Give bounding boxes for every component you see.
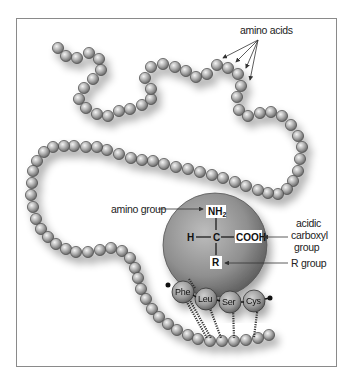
amino-acid-bead [211,59,222,70]
amino-acid-bead [145,61,156,72]
amino-acid-bead [26,177,37,188]
amino-acid-bead [135,283,146,294]
residue-phe: Phe [172,281,194,303]
amino-acid-bead [91,108,102,119]
amino-acid-bead [80,102,91,113]
amino-acid-bead [192,333,203,344]
r-label: R [212,257,220,268]
amino-acid-bead [170,161,181,172]
amino-acid-bead [30,213,41,224]
amino-acid-bead [31,155,42,166]
amino-group-label: amino group [111,203,167,215]
amino-acid-bead [229,176,240,187]
amino-acid-bead [125,152,136,163]
amino-acid-bead [58,140,69,151]
amino-acid-bead [240,180,251,191]
amino-acid-bead [80,141,91,152]
amino-acid-bead [71,52,82,63]
amino-acid-bead [169,61,180,72]
amino-acid-bead [147,155,158,166]
amino-acid-bead [132,272,143,283]
amino-acid-bead [296,141,307,152]
amino-acid-bead [91,141,102,152]
amino-acid-bead [231,91,242,102]
svg-text:Leu: Leu [198,294,212,304]
amino-acid-bead [228,335,239,346]
amino-acid-bead [140,293,151,304]
amino-acid-bead [252,184,263,195]
amino-acid-bead [294,153,305,164]
amino-acid-bead [180,65,191,76]
amino-acid-bead [78,82,89,93]
amino-acid-bead [68,140,79,151]
amino-acid-bead [50,238,61,249]
amino-acid-bead [182,163,193,174]
amino-acid-bead [25,189,36,200]
amino-acid-bead [190,71,201,82]
amino-acid-bead [27,201,38,212]
carbon-label: C [213,232,220,243]
amino-acid-bead [102,110,113,121]
amino-acid-bead [292,165,303,176]
amino-acid-bead [201,68,212,79]
svg-text:Cys: Cys [246,296,261,306]
amino-acid-bead [139,72,150,83]
group-label: group [294,241,320,253]
amino-acid-bead [276,110,287,121]
amino-acid-bead [206,169,217,180]
amino-acid-bead [285,119,296,130]
amino-acid-bead [83,47,94,58]
amino-acid-bead [292,130,303,141]
amino-acids-label: amino acids [240,24,293,36]
amino-acid-bead [263,329,274,340]
amino-acid-bead [82,246,93,257]
amino-acid-bead [235,80,246,91]
amino-acid-bead [240,334,251,345]
amino-acid-bead [95,64,106,75]
amino-acid-bead [136,154,147,165]
amino-acid-bead [101,144,112,155]
protein-diagram: NH2 C H COOH R amino acids amino group a… [0,0,354,382]
amino-acid-bead [70,246,81,257]
amino-acid-bead [113,105,124,116]
residue-ser: Ser [219,291,241,313]
amino-acid-bead [145,83,156,94]
cooh-label: COOH [236,232,266,243]
amino-acid-bead [105,242,116,253]
amino-acid-bead [222,62,233,73]
amino-acid-bead [194,166,205,177]
amino-acid-bead [171,324,182,335]
residue-leu: Leu [195,288,217,310]
amino-acid-bead [216,335,227,346]
amino-acid-bead [262,187,273,198]
amino-acid-bead [60,243,71,254]
svg-text:Ser: Ser [222,297,235,307]
amino-acid-bead [272,188,283,199]
amino-acid-bead [129,262,140,273]
carboxyl-label: carboxyl [291,229,328,241]
svg-text:Phe: Phe [175,287,190,297]
amino-acid-bead [265,106,276,117]
amino-acid-bead [145,93,156,104]
amino-acid-bead [242,110,253,121]
amino-acid-bead [94,244,105,255]
amino-acid-bead [27,165,38,176]
amino-acid-bead [157,58,168,69]
amino-acid-bead [124,103,135,114]
residue-cys: Cys [243,290,265,312]
amino-acid-bead [113,148,124,159]
amino-acid-bead [182,329,193,340]
amino-acid-bead [232,68,243,79]
amino-acid-bead [60,50,71,61]
amino-acid-bead [254,107,265,118]
amino-acid-bead [217,172,228,183]
r-group-label: R group [291,257,327,269]
amino-acid-bead [87,73,98,84]
amino-acid-bead [93,53,104,64]
hydrogen-label: H [187,232,194,243]
acidic-label: acidic [296,217,321,229]
amino-acid-bead [158,158,169,169]
amino-acid-bead [124,252,135,263]
